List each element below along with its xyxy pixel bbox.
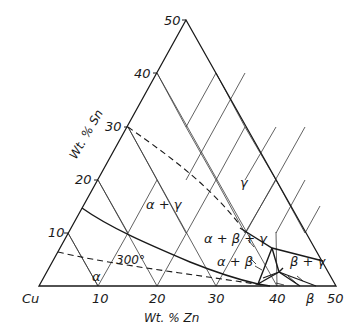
- grid-lines: [68, 20, 320, 286]
- phase-boundaries: [58, 127, 323, 286]
- triangle-frame: [39, 20, 336, 286]
- zn-tick-40: 40: [269, 291, 286, 306]
- phase-label-alpha-beta: α + β: [217, 254, 253, 269]
- sn-tick-50: 50: [164, 13, 181, 28]
- phase-label-beta-gamma: β + γ: [289, 254, 326, 269]
- corner-label-cu: Cu: [22, 291, 39, 306]
- alpha-gamma-boundary: [82, 208, 258, 284]
- sn-tick-20: 20: [75, 172, 92, 187]
- sn-tick-40: 40: [134, 66, 151, 81]
- zn-tick-20: 20: [149, 291, 166, 306]
- phase-label-alpha: α: [92, 269, 101, 284]
- phase-label-beta: β: [305, 291, 314, 306]
- sn-tick-10: 10: [48, 225, 65, 240]
- sn-axis-title: Wt. % Sn: [66, 107, 105, 161]
- phase-label-alpha-gamma: α + γ: [146, 197, 183, 212]
- phase-label-alpha-beta-gamma: α + β + γ: [204, 231, 268, 246]
- zn-tick-30: 30: [208, 291, 225, 306]
- zn-axis-title: Wt. % Zn: [144, 311, 199, 325]
- zn-tick-50: 50: [327, 291, 344, 306]
- zn-tick-10: 10: [92, 291, 109, 306]
- phase-label-gamma: γ: [240, 175, 249, 190]
- sn-tick-30: 30: [105, 119, 122, 134]
- ternary-phase-diagram: 10 20 30 40 50 10 20 30 40 50 Cu Wt. % Z…: [0, 0, 363, 331]
- temperature-label: 300°: [116, 253, 145, 267]
- dashed-gamma-line: [128, 127, 240, 225]
